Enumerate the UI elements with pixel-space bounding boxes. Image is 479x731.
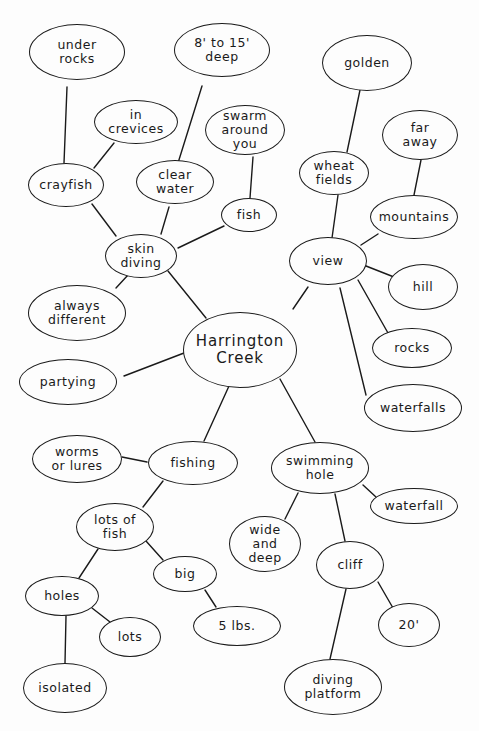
- edge-swimming_hole-to-wide_deep: [285, 493, 298, 519]
- node-holes: holes: [25, 576, 99, 616]
- edge-skin_diving-to-always_different: [116, 275, 128, 288]
- node-label: crayfish: [39, 178, 92, 192]
- node-label: always different: [48, 299, 106, 327]
- node-skin-diving: skin diving: [105, 234, 177, 278]
- node-far-away: far away: [382, 110, 458, 160]
- node-isolated: isolated: [23, 663, 107, 713]
- edge-skin_diving-to-fish: [178, 226, 224, 248]
- node-label: isolated: [38, 681, 91, 695]
- edge-holes-to-isolated: [65, 616, 66, 663]
- edge-harrington-to-partying: [124, 353, 184, 376]
- node-golden: golden: [322, 35, 412, 91]
- edge-view-to-mountains: [361, 234, 378, 245]
- node-under-rocks: under rocks: [29, 24, 125, 80]
- edge-wheat_fields-to-golden: [347, 90, 360, 152]
- node-label: view: [313, 254, 344, 268]
- edge-skin_diving-to-crayfish: [92, 204, 116, 236]
- node-label: 8' to 15' deep: [194, 36, 250, 64]
- node-label: cliff: [337, 558, 362, 572]
- edge-mountains-to-far_away: [414, 160, 421, 195]
- edge-harrington-to-swimming_hole: [280, 379, 315, 442]
- edge-view-to-rocks: [358, 280, 388, 333]
- node-big: big: [153, 556, 217, 592]
- edge-skin_diving-to-clear_water: [161, 207, 169, 234]
- node-label: worms or lures: [51, 445, 102, 473]
- node-label: mountains: [379, 210, 450, 224]
- edge-lots_of_fish-to-big: [146, 541, 163, 560]
- node-label: hill: [413, 280, 433, 294]
- node-worms: worms or lures: [32, 435, 122, 483]
- node-label: wide and deep: [248, 523, 281, 565]
- node-label: rocks: [394, 341, 430, 355]
- node-fishing: fishing: [148, 441, 238, 485]
- node-label: swimming hole: [286, 454, 354, 482]
- node-cliff: cliff: [316, 541, 384, 589]
- node-label: swarm around you: [222, 109, 269, 151]
- node-label: wheat fields: [314, 159, 355, 187]
- node-swarm: swarm around you: [205, 105, 285, 155]
- node-five-lbs: 5 lbs.: [193, 606, 281, 646]
- edge-swimming_hole-to-cliff: [335, 494, 345, 541]
- node-label: under rocks: [57, 38, 96, 66]
- edge-crayfish-to-under_rocks: [64, 87, 67, 163]
- node-deep-8-15: 8' to 15' deep: [174, 23, 270, 77]
- node-label: far away: [403, 121, 438, 149]
- edge-fishing-to-lots_of_fish: [143, 481, 163, 507]
- edge-harrington-to-view: [293, 287, 308, 309]
- node-label: big: [175, 567, 196, 581]
- node-label: 5 lbs.: [219, 619, 256, 633]
- node-label: fish: [237, 208, 261, 222]
- node-waterfalls: waterfalls: [364, 384, 462, 432]
- edge-harrington-to-fishing: [204, 386, 229, 441]
- mind-map-canvas: Harrington Creekskin divingcrayfishunder…: [0, 0, 479, 731]
- node-wide-deep: wide and deep: [229, 516, 301, 572]
- edge-holes-to-lots: [92, 608, 110, 622]
- node-label: skin diving: [120, 242, 161, 270]
- node-mountains: mountains: [370, 195, 458, 239]
- node-wheat-fields: wheat fields: [299, 151, 369, 195]
- node-fish: fish: [221, 198, 277, 232]
- edge-view-to-hill: [366, 266, 394, 277]
- node-lots-of-fish: lots of fish: [76, 503, 154, 551]
- node-label: fishing: [170, 456, 215, 470]
- node-harrington: Harrington Creek: [183, 312, 297, 388]
- node-label: golden: [344, 56, 390, 70]
- edge-view-to-wheat_fields: [332, 195, 338, 238]
- edge-crayfish-to-in_crevices: [94, 143, 114, 168]
- node-label: 20': [399, 618, 420, 632]
- node-rocks: rocks: [372, 328, 452, 368]
- node-waterfall: waterfall: [370, 488, 458, 524]
- node-view: view: [289, 237, 367, 285]
- edge-fish-to-swarm: [250, 157, 253, 198]
- node-label: waterfall: [384, 499, 443, 513]
- edge-cliff-to-twenty_ft: [378, 582, 393, 608]
- node-label: clear water: [156, 168, 194, 196]
- node-label: lots: [118, 630, 143, 644]
- node-hill: hill: [388, 264, 458, 310]
- node-label: waterfalls: [380, 401, 446, 415]
- node-twenty-ft: 20': [378, 603, 440, 647]
- edge-big-to-five_lbs: [205, 590, 216, 607]
- node-clear-water: clear water: [136, 160, 214, 204]
- node-always-different: always different: [28, 285, 126, 341]
- edge-fishing-to-worms: [122, 457, 147, 462]
- edge-harrington-to-skin_diving: [168, 271, 206, 318]
- edge-lots_of_fish-to-holes: [79, 549, 98, 578]
- node-lots: lots: [99, 617, 161, 657]
- edge-swimming_hole-to-waterfall: [363, 485, 376, 497]
- node-label: lots of fish: [94, 513, 136, 541]
- node-partying: partying: [19, 359, 117, 405]
- node-label: partying: [40, 375, 96, 389]
- edge-cliff-to-diving_platform: [330, 589, 346, 659]
- node-label: holes: [44, 589, 80, 603]
- edge-clear_water-to-deep_8_15: [178, 86, 202, 163]
- node-crayfish: crayfish: [28, 163, 104, 207]
- node-label: in crevices: [108, 108, 163, 136]
- node-label: Harrington Creek: [196, 333, 284, 367]
- node-diving-platform: diving platform: [284, 659, 382, 715]
- node-label: diving platform: [304, 673, 361, 701]
- edge-view-to-waterfalls: [340, 288, 366, 395]
- node-swimming-hole: swimming hole: [271, 442, 369, 494]
- node-in-crevices: in crevices: [94, 100, 178, 144]
